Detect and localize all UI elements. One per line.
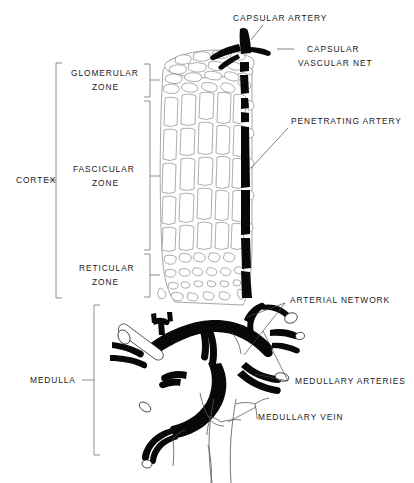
- label-glomerular-zone-line1: GLOMERULAR: [71, 68, 139, 78]
- label-arterial-network: ARTERIAL NETWORK: [290, 295, 390, 305]
- medulla-bracket: [82, 305, 100, 455]
- label-capsular-artery: CAPSULAR ARTERY: [233, 13, 327, 23]
- label-glomerular-zone-line2: ZONE: [92, 82, 119, 92]
- label-reticular-zone-line2: ZONE: [92, 277, 119, 287]
- reticular-zone-bracket: [144, 254, 160, 297]
- label-medullary-vein: MEDULLARY VEIN: [258, 412, 343, 422]
- adrenal-vascular-diagram: CAPSULAR ARTERY CAPSULAR VASCULAR NET PE…: [0, 0, 414, 483]
- fascicular-zone-bracket: [144, 101, 160, 250]
- label-medulla: MEDULLA: [30, 375, 76, 385]
- cortical-capillary-mesh: [158, 50, 255, 305]
- label-penetrating-artery: PENETRATING ARTERY: [291, 116, 402, 126]
- label-capsular-vascular-net-line2: VASCULAR NET: [298, 58, 372, 68]
- glomerular-zone-bracket: [144, 64, 160, 97]
- label-fascicular-zone-line2: ZONE: [92, 178, 119, 188]
- label-reticular-zone-line1: RETICULAR: [79, 263, 135, 273]
- label-capsular-vascular-net-line1: CAPSULAR: [307, 44, 359, 54]
- label-medullary-arteries: MEDULLARY ARTERIES: [295, 376, 406, 386]
- medullary-vein: [173, 398, 269, 483]
- label-cortex: CORTEX: [16, 175, 56, 185]
- label-fascicular-zone-line1: FASCICULAR: [73, 164, 135, 174]
